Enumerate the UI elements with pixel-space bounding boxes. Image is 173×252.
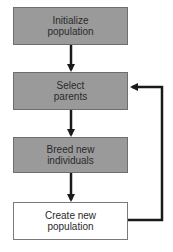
node-label-line2: population (47, 26, 93, 37)
arrow-loop-back (128, 87, 162, 220)
node-label-line1: Create new (45, 210, 96, 221)
node-label-line1: Select (57, 80, 85, 91)
node-label-line1: Initialize (52, 15, 88, 26)
node-select-parents: Selectparents (13, 72, 128, 110)
node-label-line2: individuals (47, 155, 94, 166)
node-breed-new-individuals: Breed newindividuals (13, 137, 128, 173)
node-create-new-population: Create newpopulation (13, 202, 128, 240)
node-label-line2: population (47, 221, 93, 232)
node-label-line1: Breed new (47, 144, 95, 155)
node-label-line2: parents (54, 91, 87, 102)
node-initialize-population: Initializepopulation (13, 7, 128, 45)
